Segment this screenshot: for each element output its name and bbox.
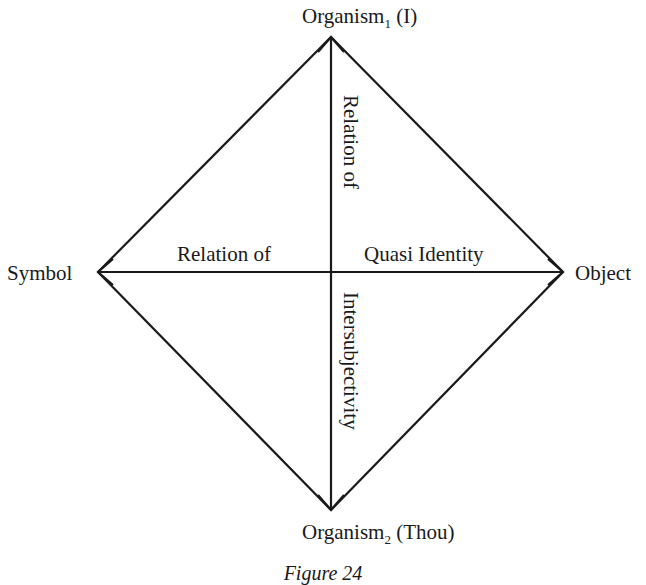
vertical-label-bottom: Intersubjectivity (340, 292, 361, 430)
node-bottom-suffix: (Thou) (391, 520, 455, 544)
edge-top-left (98, 37, 331, 272)
edge-bottom-right (331, 272, 563, 510)
edge-bottom-left (98, 272, 331, 510)
node-top-label: Organism1 (I) (302, 6, 417, 27)
node-bottom-subscript: 2 (384, 532, 391, 547)
edge-top-right (331, 37, 563, 272)
node-left-label: Symbol (7, 263, 72, 284)
node-right-label: Object (575, 263, 631, 284)
node-bottom-label: Organism2 (Thou) (302, 522, 455, 543)
figure-caption: Figure 24 (0, 562, 646, 585)
horizontal-label-left: Relation of (177, 244, 271, 265)
vertical-label-top: Relation of (340, 95, 361, 189)
node-top-subscript: 1 (384, 16, 391, 31)
node-top-suffix: (I) (391, 4, 417, 28)
node-top-text: Organism (302, 4, 384, 28)
horizontal-label-right: Quasi Identity (364, 244, 484, 265)
node-bottom-text: Organism (302, 520, 384, 544)
